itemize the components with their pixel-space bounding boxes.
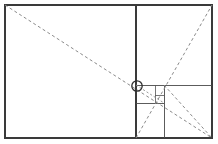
primary-diagonal <box>5 5 212 138</box>
diagram-canvas <box>0 0 218 144</box>
inner-square-diagonal <box>136 85 164 103</box>
reciprocal-diagonal <box>136 5 212 138</box>
construction-diagram <box>0 0 218 144</box>
